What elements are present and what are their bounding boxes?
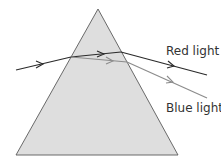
incident-ray — [16, 57, 71, 70]
blue-light-label: Blue light — [166, 102, 221, 114]
prism-diagram — [0, 0, 221, 160]
red-light-label: Red light — [166, 45, 219, 57]
prism — [16, 9, 178, 155]
